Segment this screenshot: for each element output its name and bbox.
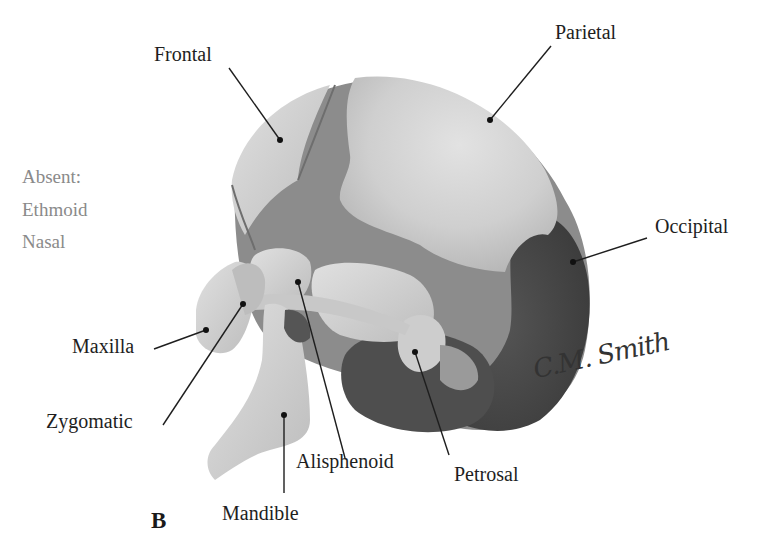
label-occipital: Occipital [655, 216, 728, 236]
label-mandible: Mandible [222, 503, 299, 523]
absent-item-ethmoid: Ethmoid [22, 194, 87, 227]
absent-heading: Absent: [22, 161, 87, 194]
absent-item-nasal: Nasal [22, 226, 87, 259]
label-maxilla: Maxilla [72, 336, 134, 356]
label-alisphenoid: Alisphenoid [296, 451, 394, 471]
label-parietal: Parietal [555, 22, 616, 42]
label-petrosal: Petrosal [454, 464, 518, 484]
skull-diagram: Frontal Parietal Occipital Maxilla Zygom… [0, 0, 773, 547]
label-zygomatic: Zygomatic [46, 411, 133, 431]
label-frontal: Frontal [154, 44, 212, 64]
panel-letter: B [151, 508, 166, 534]
absent-bones-note: Absent: Ethmoid Nasal [22, 161, 87, 259]
